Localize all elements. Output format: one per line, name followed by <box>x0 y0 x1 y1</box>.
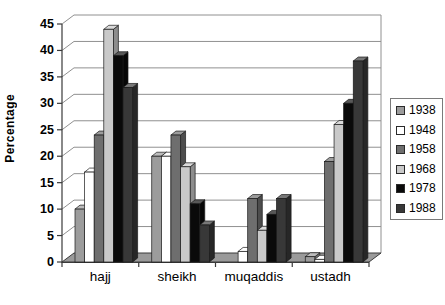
legend: 193819481958196819781988 <box>390 98 443 220</box>
y-tick-label: 5 <box>47 229 54 243</box>
bar-side-1988 <box>363 57 368 262</box>
bar-side-1988 <box>286 195 291 262</box>
y-tick-label: 40 <box>40 43 54 57</box>
legend-label: 1968 <box>409 163 436 176</box>
y-tick-label: 35 <box>40 70 54 84</box>
bar-hajj-1958 <box>94 135 104 262</box>
bar-ustadh-1938 <box>305 257 315 262</box>
bar-ustadh-1988 <box>353 61 363 262</box>
bar-sheikh-1958 <box>171 135 181 262</box>
legend-item-1968: 1968 <box>396 163 440 176</box>
category-label-hajj: hajj <box>90 269 111 284</box>
legend-label: 1938 <box>409 104 436 117</box>
bar-ustadh-1958 <box>324 162 334 262</box>
bar-hajj-1978 <box>113 56 123 262</box>
y-tick-label: 25 <box>40 123 54 137</box>
bar-hajj-1948 <box>85 172 95 262</box>
legend-item-1938: 1938 <box>396 104 440 117</box>
legend-item-1988: 1988 <box>396 202 440 215</box>
gridline-connector <box>62 147 74 156</box>
bar-ustadh-1978 <box>344 103 354 262</box>
legend-swatch-1968 <box>396 165 405 174</box>
bar-sheikh-1978 <box>190 204 200 262</box>
legend-swatch-1988 <box>396 204 405 213</box>
gridline-connector <box>62 41 74 50</box>
bar-muqaddis-1958 <box>248 199 258 262</box>
y-tick-label: 0 <box>47 255 54 269</box>
y-tick-label: 20 <box>40 149 54 163</box>
legend-item-1948: 1948 <box>396 124 440 137</box>
y-tick-label: 45 <box>40 17 54 31</box>
bar-ustadh-1968 <box>334 124 344 262</box>
category-label-muqaddis: muqaddis <box>225 269 284 284</box>
gridline-connector <box>62 68 74 77</box>
bar-sheikh-1988 <box>200 225 210 262</box>
legend-item-1958: 1958 <box>396 143 440 156</box>
gridline-connector <box>62 200 74 209</box>
bar-side-1988 <box>133 83 138 262</box>
legend-label: 1978 <box>409 182 436 195</box>
bar-hajj-1938 <box>75 209 85 262</box>
y-tick-label: 30 <box>40 96 54 110</box>
bar-muqaddis-1978 <box>267 214 277 262</box>
gridline-connector <box>62 227 74 236</box>
gridline-connector <box>62 15 74 24</box>
bar-hajj-1968 <box>104 29 114 262</box>
y-tick-label: 10 <box>40 202 54 216</box>
bar-hajj-1988 <box>123 87 133 262</box>
bar-muqaddis-1988 <box>277 199 287 262</box>
legend-item-1978: 1978 <box>396 182 440 195</box>
legend-swatch-1978 <box>396 184 405 193</box>
chart-root: Percentage 051015202530354045hajjsheikhm… <box>0 0 445 305</box>
bar-side-1988 <box>209 221 214 262</box>
legend-label: 1988 <box>409 202 436 215</box>
category-label-sheikh: sheikh <box>158 269 197 284</box>
gridline-connector <box>62 121 74 130</box>
gridline-connector <box>62 94 74 103</box>
legend-swatch-1938 <box>396 106 405 115</box>
bar-sheikh-1948 <box>161 156 171 262</box>
bar-ustadh-1948 <box>315 259 325 262</box>
y-tick-label: 15 <box>40 176 54 190</box>
category-label-ustadh: ustadh <box>310 269 351 284</box>
bar-sheikh-1968 <box>181 167 191 262</box>
chart-svg: 051015202530354045hajjsheikhmuqaddisusta… <box>0 0 445 305</box>
legend-label: 1958 <box>409 143 436 156</box>
legend-label: 1948 <box>409 124 436 137</box>
plot-area: 051015202530354045hajjsheikhmuqaddisusta… <box>0 0 445 305</box>
gridline-connector <box>62 174 74 183</box>
bar-sheikh-1938 <box>152 156 162 262</box>
bar-muqaddis-1968 <box>257 230 267 262</box>
legend-swatch-1948 <box>396 126 405 135</box>
legend-swatch-1958 <box>396 145 405 154</box>
bar-muqaddis-1948 <box>238 251 248 262</box>
